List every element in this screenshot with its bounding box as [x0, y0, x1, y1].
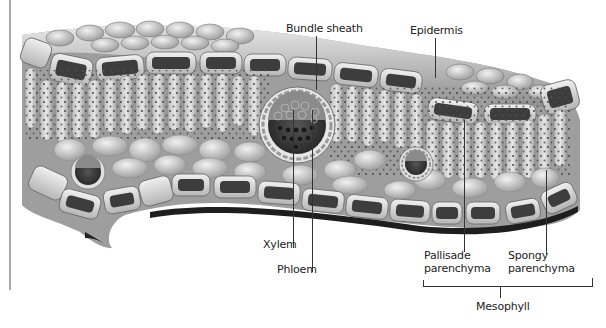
- label-pallisade-2: parenchyma: [424, 262, 491, 275]
- label-spongy-2: parenchyma: [508, 262, 575, 275]
- mesophyll-bracket-stem: [500, 286, 501, 298]
- phloem-leader: [312, 110, 313, 272]
- label-phloem: Phloem: [277, 263, 317, 276]
- vascular-bundle-small: [399, 147, 433, 181]
- epidermis-leader: [435, 38, 436, 78]
- label-xylem: Xylem: [263, 238, 297, 251]
- bundle-sheath-leader: [316, 36, 317, 90]
- label-epidermis: Epidermis: [410, 24, 463, 37]
- mesophyll-bracket-right: [592, 278, 593, 287]
- spongy-leader: [546, 170, 547, 254]
- vascular-bundle-large: [259, 87, 335, 163]
- pallisade-leader: [464, 120, 465, 252]
- label-mesophyll: Mesophyll: [476, 300, 530, 313]
- xylem-leader: [293, 110, 294, 248]
- mesophyll-bracket-horizontal: [423, 286, 593, 287]
- label-spongy-1: Spongy: [508, 249, 548, 262]
- mesophyll-bracket-left: [423, 280, 424, 287]
- label-pallisade-1: Pallisade: [424, 249, 470, 262]
- leaf-cross-section-diagram: Bundle sheath Epidermis Xylem Phloem Pal…: [0, 0, 606, 328]
- leaf-illustration: [0, 0, 606, 328]
- vascular-bundle-left: [71, 155, 105, 189]
- label-bundle-sheath: Bundle sheath: [286, 22, 363, 35]
